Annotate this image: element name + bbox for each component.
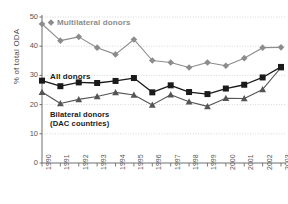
- data-point-triangle-1990: [39, 89, 46, 95]
- series-label-bilateral-line1: Bilateral donors: [50, 110, 109, 119]
- data-point-diamond-2003: [278, 44, 285, 51]
- data-point-diamond-2002: [259, 44, 266, 51]
- x-tick-label-1993: 1993: [100, 154, 107, 170]
- data-point-triangle-1998: [186, 98, 193, 104]
- data-series-layer: [39, 21, 285, 110]
- series-label-all-donors: All donors: [50, 72, 91, 81]
- chart-container: % of total ODA 50 40 30 20 10 0 19901991…: [0, 0, 288, 204]
- data-point-diamond-1992: [75, 34, 82, 41]
- series-label-bilateral-line2: (DAC countries): [50, 119, 109, 128]
- x-tick-label-2003: 2003: [284, 154, 288, 170]
- data-point-diamond-1999: [204, 59, 211, 66]
- data-point-diamond-2001: [241, 55, 248, 62]
- data-point-square-2001: [241, 82, 247, 88]
- data-point-square-1994: [113, 78, 119, 84]
- x-tick-label-1997: 1997: [174, 154, 181, 170]
- series-line-diamond: [42, 24, 281, 68]
- data-point-square-2003: [278, 64, 284, 70]
- data-point-diamond-1998: [186, 64, 193, 71]
- data-point-square-1996: [149, 89, 155, 95]
- data-point-triangle-1994: [112, 89, 119, 95]
- x-tick-label-1995: 1995: [137, 154, 144, 170]
- series-triangle: [39, 64, 285, 109]
- data-point-square-1997: [168, 82, 174, 88]
- x-tick-label-1994: 1994: [119, 154, 126, 170]
- x-tick-label-1990: 1990: [45, 154, 52, 170]
- x-tick-label-1991: 1991: [63, 154, 70, 170]
- x-tick-label-1996: 1996: [155, 154, 162, 170]
- series-diamond: [39, 21, 285, 71]
- x-tick-label-2000: 2000: [229, 154, 236, 170]
- data-point-square-2000: [223, 86, 229, 92]
- plot-area: [0, 0, 288, 204]
- data-point-diamond-1993: [94, 44, 101, 51]
- data-point-square-1990: [39, 78, 45, 84]
- series-label-bilateral: Bilateral donors (DAC countries): [50, 110, 109, 128]
- x-tick-label-2001: 2001: [247, 154, 254, 170]
- x-tick-label-1992: 1992: [82, 154, 89, 170]
- data-point-diamond-1997: [167, 59, 174, 66]
- x-tick-label-1999: 1999: [210, 154, 217, 170]
- data-point-triangle-1997: [167, 91, 174, 97]
- data-point-square-1998: [186, 89, 192, 95]
- data-point-diamond-2000: [223, 62, 230, 69]
- series-label-multilateral: Multilateral donors: [57, 18, 130, 27]
- x-tick-label-1998: 1998: [192, 154, 199, 170]
- data-point-square-1995: [131, 75, 137, 81]
- data-point-square-1993: [94, 80, 100, 86]
- x-tick-label-2002: 2002: [266, 154, 273, 170]
- data-point-square-1991: [57, 83, 63, 89]
- data-point-square-1999: [204, 91, 210, 97]
- data-point-square-2002: [260, 74, 266, 80]
